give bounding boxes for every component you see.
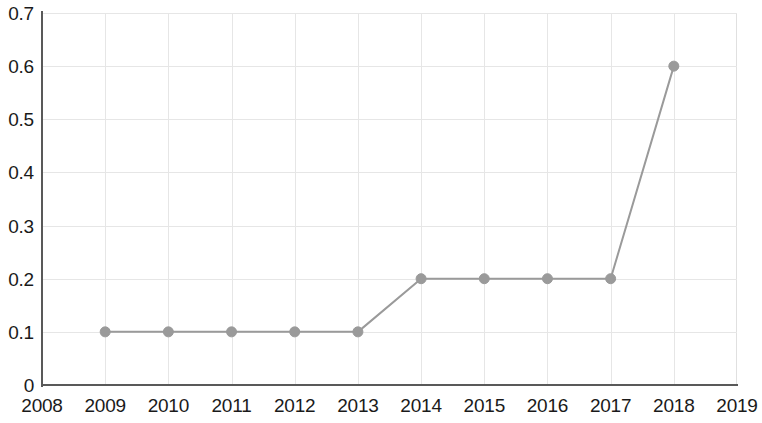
data-point-marker (669, 61, 679, 71)
data-point-marker (353, 327, 363, 337)
series-layer (0, 0, 762, 423)
data-point-marker (163, 327, 173, 337)
data-point-marker (100, 327, 110, 337)
data-point-marker (416, 274, 426, 284)
data-point-marker (290, 327, 300, 337)
data-point-marker (606, 274, 616, 284)
series-line (105, 66, 674, 332)
data-point-marker (227, 327, 237, 337)
series-markers (100, 61, 679, 337)
data-point-marker (542, 274, 552, 284)
line-chart: 0.70.60.50.40.30.20.10 20082009201020112… (0, 0, 762, 423)
data-point-marker (479, 274, 489, 284)
